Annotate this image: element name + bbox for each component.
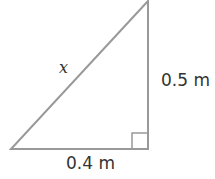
- vertical-side-label: 0.5 m: [161, 72, 210, 89]
- right-angle-marker: [132, 133, 148, 149]
- triangle-outline: [11, 1, 148, 149]
- triangle-diagram: x 0.5 m 0.4 m: [0, 0, 215, 179]
- hypotenuse-label: x: [59, 60, 68, 76]
- base-label: 0.4 m: [66, 155, 115, 172]
